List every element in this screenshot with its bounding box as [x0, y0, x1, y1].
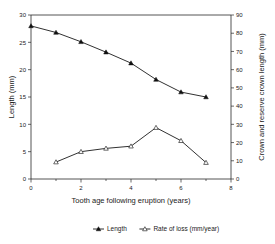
x-axis-title: Tooth age following eruption (years): [72, 196, 191, 205]
chart-background: [0, 0, 275, 244]
chart-figure: 051015202530 0102030405060708090 02468 L…: [0, 0, 275, 244]
right-tick-label: 50: [236, 85, 243, 91]
right-tick-label: 90: [236, 12, 243, 18]
right-tick-label: 30: [236, 122, 243, 128]
left-tick-label: 20: [19, 67, 26, 73]
left-tick-label: 30: [19, 12, 26, 18]
legend-label: Length: [107, 225, 127, 233]
left-tick-label: 10: [19, 122, 26, 128]
left-tick-label: 25: [19, 40, 26, 46]
right-tick-label: 80: [236, 30, 243, 36]
legend-label: Rate of loss (mm/year): [153, 225, 219, 233]
y2-axis-title: Crown and reserve crown length (mm): [257, 33, 266, 161]
y-axis-title: Length (mm): [7, 75, 16, 118]
right-tick-label: 40: [236, 103, 243, 109]
right-tick-label: 20: [236, 140, 243, 146]
left-tick-label: 15: [19, 94, 26, 100]
right-tick-label: 60: [236, 67, 243, 73]
right-tick-label: 70: [236, 49, 243, 55]
right-tick-label: 10: [236, 158, 243, 164]
chart-legend: LengthRate of loss (mm/year): [93, 225, 219, 233]
